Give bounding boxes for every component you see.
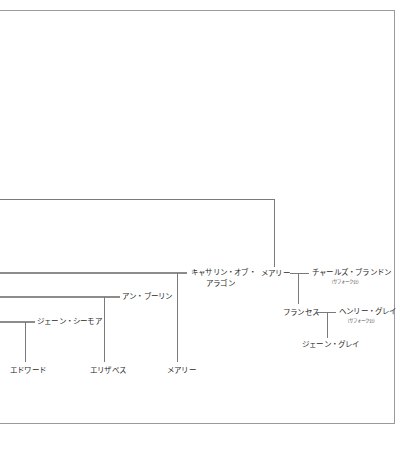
descent-line-elizabeth [104,297,105,362]
marriage-line-mary-charles [290,273,309,274]
child-elizabeth: エリザベス [90,367,126,375]
charles-title: （サフォーク公） [329,280,361,285]
spouse-jane-seymour: ジェーン・シーモア [37,318,102,326]
spouse-henry-grey: ヘンリー・グレイ [339,308,397,316]
spouse-anne-boleyn: アン・ブーリン [122,293,172,301]
diagram-frame [0,10,395,424]
marriage-line-catherine [0,272,187,274]
descent-line-frances [298,273,299,304]
person-mary-sister: メアリー [261,270,290,278]
marriage-line-jane-seymour [0,321,35,323]
henry-grey-title: （サフォーク公） [345,319,377,324]
connector-top-vertical [274,199,275,267]
person-jane-grey: ジェーン・グレイ [302,341,360,349]
descent-line-mary-daughter [177,273,178,362]
person-frances: フランセス [283,309,319,317]
descent-line-edward [25,322,26,362]
spouse-catherine-line2: アラゴン [206,280,235,288]
spouse-catherine-line1: キャサリン・オブ・ [191,269,256,277]
child-mary: メアリー [167,367,196,375]
connector-top-horizontal [0,199,275,200]
spouse-charles-brandon: チャールズ・ブランドン [312,269,391,277]
descent-line-jane-grey [327,312,328,338]
marriage-line-anne [0,296,120,298]
child-edward: エドワード [10,367,46,375]
